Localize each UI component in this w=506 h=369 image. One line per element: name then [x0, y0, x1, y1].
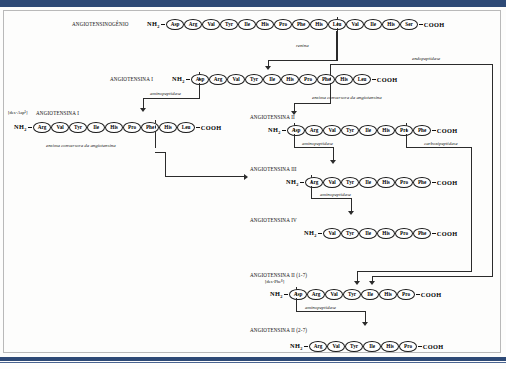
- residue: Tyr: [343, 289, 362, 300]
- residue: Asp: [289, 289, 308, 300]
- residue: His: [105, 122, 124, 133]
- residue: Val: [323, 177, 342, 188]
- connector-aminopeptidase2-horizontal: [294, 147, 334, 148]
- residue: Phe: [317, 74, 336, 85]
- residue: His: [377, 228, 396, 239]
- bond-dash: [432, 182, 436, 183]
- residue: Arg: [307, 289, 326, 300]
- residue: Arg: [305, 125, 324, 136]
- n-terminus: NH2: [172, 75, 185, 84]
- bond-dash: [161, 24, 165, 25]
- bond-dash: [318, 233, 322, 234]
- enzyme-label-aminopeptidase-4: aminopeptidase: [305, 305, 336, 310]
- enzyme-label-carboxipeptidase: carboxipeptidase: [424, 141, 458, 146]
- enzyme-label-endopeptidase: endopeptidase: [412, 56, 440, 61]
- connector-aminopeptidase1-horizontal: [143, 98, 200, 99]
- residue: Val: [325, 289, 344, 300]
- connector-carboxipeptidase-vertical: [406, 137, 407, 147]
- n-terminus: NH2: [14, 123, 27, 132]
- residue: Phe: [413, 125, 432, 136]
- peptide-chain-angiotensina-ii: NH2 Asp Arg Val Tyr Ile His Pro Phe COOH: [268, 124, 458, 137]
- residue: His: [159, 122, 178, 133]
- cleavage-marker-renina: [337, 17, 338, 31]
- residue: Pro: [123, 122, 142, 133]
- bottom-accent-bar-thin: [0, 362, 506, 363]
- residue: Tyr: [341, 228, 360, 239]
- bond-dash: [418, 346, 422, 347]
- connector-eca-left-drop: [165, 152, 166, 177]
- arrowhead-carboxipeptidase: [354, 281, 360, 285]
- enzyme-label-aminopeptidase-3: aminopeptidase: [320, 192, 351, 197]
- residue: Ile: [359, 177, 378, 188]
- bond-dash: [196, 127, 200, 128]
- residue: Tyr: [341, 125, 360, 136]
- c-terminus: COOH: [424, 21, 445, 28]
- residue: Leu: [353, 74, 372, 85]
- residue: Pro: [395, 177, 414, 188]
- bond-dash: [284, 294, 288, 295]
- connector-aminopeptidase3-horizontal: [311, 198, 352, 199]
- peptide-chain-angiotensina-ii-2-7: NH2 Arg Val Tyr Ile His Pro COOH: [290, 340, 444, 353]
- enzyme-label-aminopeptidase-1: aminopeptidase: [150, 91, 181, 96]
- cleavage-marker-aminopeptidase-4: [296, 287, 297, 301]
- connector-aminopeptidase1-vertical: [199, 86, 200, 98]
- bond-dash: [304, 346, 308, 347]
- peptide-sublabel-des-asp: [des-Asp¹]: [8, 110, 28, 115]
- residue: Arg: [305, 177, 324, 188]
- connector-renina-horizontal: [268, 60, 337, 61]
- residue: Val: [202, 19, 221, 30]
- peptide-label-angiotensina-ii-1-7: ANGIOTENSINA II (1-7): [250, 272, 307, 278]
- residue: His: [256, 19, 275, 30]
- residue: Phe: [292, 19, 311, 30]
- peptide-sublabel-des-phe: [des-Phe⁸]: [265, 279, 284, 284]
- connector-eca-right-horizontal: [294, 103, 331, 104]
- n-terminus: NH2: [290, 342, 303, 351]
- arrowhead-aminopeptidase-3: [348, 211, 354, 215]
- residue: Asp: [191, 74, 210, 85]
- bond-dash: [432, 233, 436, 234]
- residue: Ile: [363, 341, 382, 352]
- residue: His: [379, 289, 398, 300]
- residue: Pro: [395, 125, 414, 136]
- c-terminus: COOH: [437, 230, 458, 237]
- residue: Ile: [364, 19, 383, 30]
- residue: Pro: [397, 289, 416, 300]
- connector-eca-left-horizontal: [165, 176, 245, 177]
- connector-aminopeptidase4-vertical: [296, 301, 297, 311]
- residue: Arg: [309, 341, 328, 352]
- residue: Val: [327, 341, 346, 352]
- c-terminus: COOH: [423, 343, 444, 350]
- residue: His: [382, 19, 401, 30]
- connector-carboxipeptidase-bottom: [357, 271, 472, 272]
- residue: His: [281, 74, 300, 85]
- cleavage-marker-aminopeptidase-3: [311, 175, 312, 189]
- n-terminus: NH2: [304, 229, 317, 238]
- n-terminus: NH2: [268, 126, 281, 135]
- residue: Ser: [400, 19, 419, 30]
- cleavage-marker-eca-right: [330, 72, 331, 86]
- residue: His: [381, 341, 400, 352]
- connector-endopeptidase-rail: [492, 64, 493, 277]
- enzyme-label-renina: renina: [296, 43, 309, 48]
- arrowhead-eca-left: [244, 174, 248, 180]
- residue: Pro: [299, 74, 318, 85]
- n-terminus: NH2: [270, 290, 283, 299]
- arrowhead-aminopeptidase-4: [362, 322, 368, 326]
- residue: Ile: [87, 122, 106, 133]
- residue: Tyr: [245, 74, 264, 85]
- residue: Tyr: [220, 19, 239, 30]
- residue: Val: [346, 19, 365, 30]
- residue: Tyr: [69, 122, 88, 133]
- enzyme-label-eca-left: enzima conversora da angiotensina: [46, 143, 116, 148]
- connector-endopeptidase-left: [330, 64, 331, 72]
- peptide-label-angiotensinogenio: ANGIOTENSINOGÊNIO: [72, 21, 129, 27]
- arrowhead-renina: [265, 66, 271, 70]
- residue: Tyr: [341, 177, 360, 188]
- cleavage-marker-eca-left: [155, 120, 156, 134]
- peptide-label-angiotensina-ii: ANGIOTENSINA II: [250, 114, 295, 120]
- peptide-label-angiotensina-i: ANGIOTENSINA I: [110, 76, 153, 82]
- bond-dash: [186, 79, 190, 80]
- connector-carboxipeptidase-rail: [471, 147, 472, 271]
- residue: His: [377, 125, 396, 136]
- bond-dash: [372, 79, 376, 80]
